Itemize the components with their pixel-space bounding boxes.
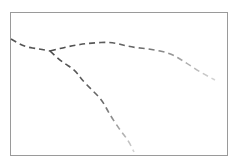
branching-dashed-lines <box>0 0 238 164</box>
upper-branch-line <box>50 42 215 80</box>
lower-branch-line <box>50 51 134 152</box>
trunk-line <box>11 39 50 51</box>
